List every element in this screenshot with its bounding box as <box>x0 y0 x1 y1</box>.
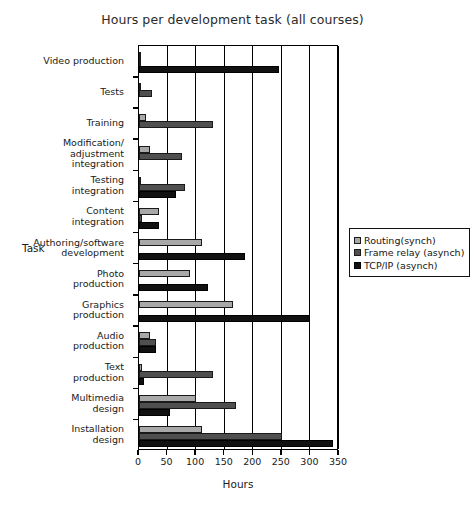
y-axis-tick-label: Tests <box>100 86 124 97</box>
bar-group <box>139 364 337 385</box>
x-axis-tick <box>194 450 195 455</box>
x-axis-tick-label: 0 <box>135 456 141 467</box>
legend-label: Frame relay (asynch) <box>364 247 464 258</box>
y-axis-tick <box>133 263 139 264</box>
y-axis-labels: Video productionTestsTrainingModificatio… <box>0 45 132 450</box>
x-axis-tick <box>166 450 167 455</box>
x-axis-tick <box>309 450 310 455</box>
bar <box>139 253 245 260</box>
bar <box>139 177 141 184</box>
bar <box>139 395 196 402</box>
bar <box>139 121 213 128</box>
x-axis-tick <box>223 450 224 455</box>
x-axis-tick-label: 350 <box>329 456 347 467</box>
bar-group <box>139 426 337 447</box>
bar <box>139 440 333 447</box>
bar <box>139 52 141 59</box>
bar <box>139 66 279 73</box>
bar <box>139 378 144 385</box>
legend-swatch-icon <box>354 262 361 269</box>
y-axis-tick <box>133 138 139 139</box>
y-axis-tick-label: Installation design <box>71 424 124 445</box>
y-axis-tick <box>133 388 139 389</box>
bar <box>139 284 208 291</box>
bar <box>139 191 176 198</box>
bar-group <box>139 270 337 291</box>
y-axis-tick-label: Authoring/software development <box>33 237 124 258</box>
x-axis-tick <box>337 450 338 455</box>
bar <box>139 208 159 215</box>
x-axis-tick <box>252 450 253 455</box>
bar <box>139 114 146 121</box>
y-axis-tick <box>133 419 139 420</box>
x-axis-tick <box>280 450 281 455</box>
bar <box>139 409 170 416</box>
bar-group <box>139 208 337 229</box>
bar <box>139 215 142 222</box>
y-axis-tick-label: Testing integration <box>72 175 124 196</box>
y-axis-tick-label: Text production <box>73 362 124 383</box>
bar-group <box>139 239 337 260</box>
x-axis-tick-label: 250 <box>272 456 290 467</box>
bar-group <box>139 114 337 135</box>
x-axis-tick-label: 100 <box>186 456 204 467</box>
bar <box>139 371 213 378</box>
bar <box>139 339 156 346</box>
bar <box>139 184 185 191</box>
bar <box>139 239 202 246</box>
bar <box>139 59 141 66</box>
bar-group <box>139 83 337 104</box>
legend-label: Routing(synch) <box>364 235 436 246</box>
y-axis-tick <box>133 201 139 202</box>
y-axis-tick-label: Audio production <box>73 330 124 351</box>
y-axis-tick-label: Graphics production <box>73 299 124 320</box>
bar <box>139 270 190 277</box>
bar <box>139 402 236 409</box>
bar-group <box>139 146 337 167</box>
y-axis-tick-label: Video production <box>43 55 124 66</box>
x-axis-tick-label: 300 <box>300 456 318 467</box>
bar <box>139 332 150 339</box>
bar <box>139 83 141 90</box>
y-axis-tick <box>133 232 139 233</box>
gridline-x-350 <box>338 46 339 449</box>
y-axis-tick <box>133 357 139 358</box>
bar <box>139 346 156 353</box>
legend-item: TCP/IP (asynch) <box>354 260 464 271</box>
legend-label: TCP/IP (asynch) <box>364 260 437 271</box>
bar-group <box>139 301 337 322</box>
bar <box>139 433 282 440</box>
y-axis-tick <box>133 170 139 171</box>
bar-group <box>139 332 337 353</box>
x-axis-tick-label: 150 <box>215 456 233 467</box>
legend-item: Frame relay (asynch) <box>354 247 464 258</box>
bar <box>139 426 202 433</box>
y-axis-tick <box>133 294 139 295</box>
bar <box>139 90 152 97</box>
y-axis-tick-label: Training <box>87 118 125 129</box>
y-axis-tick-label: Photo production <box>73 268 124 289</box>
bar <box>139 146 150 153</box>
bar <box>139 153 182 160</box>
plot-area <box>138 45 338 450</box>
y-axis-tick <box>133 325 139 326</box>
bar-group <box>139 177 337 198</box>
legend-swatch-icon <box>354 237 361 244</box>
bar <box>139 222 159 229</box>
y-axis-tick <box>133 107 139 108</box>
y-axis-tick-label: Modification/ adjustment integration <box>63 138 124 170</box>
bar <box>139 301 233 308</box>
bar-group <box>139 395 337 416</box>
chart-legend: Routing(synch)Frame relay (asynch)TCP/IP… <box>349 228 470 277</box>
y-axis-tick-label: Multimedia design <box>71 393 124 414</box>
bar-group <box>139 52 337 73</box>
y-axis-tick-label: Content integration <box>72 206 124 227</box>
legend-item: Routing(synch) <box>354 235 464 246</box>
legend-swatch-icon <box>354 249 361 256</box>
x-axis-tick-label: 50 <box>161 456 173 467</box>
y-axis-tick <box>133 76 139 77</box>
x-axis-title: Hours <box>138 478 338 490</box>
bar <box>139 315 310 322</box>
x-axis-tick-label: 200 <box>243 456 261 467</box>
